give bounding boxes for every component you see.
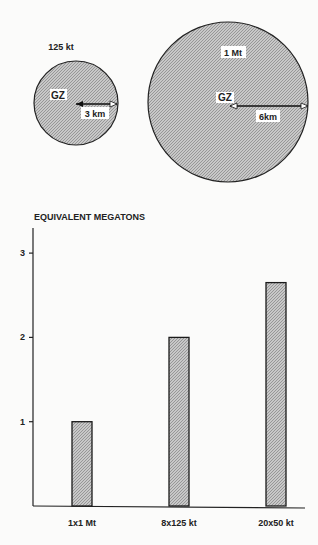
large-circle-diagram: 1 Mt GZ 6km [148,22,308,182]
bar-chart: EQUIVALENT MEGATONS 123 1x1 Mt8x125 kt20… [20,212,305,528]
small-gz-label: GZ [51,90,65,101]
small-radius-label: 3 km [85,109,106,119]
large-radius-label: 6km [259,112,277,122]
bar-3 [266,283,286,506]
y-tick-label: 3 [20,248,25,258]
y-tick-label: 2 [20,332,25,342]
large-gz-label: GZ [218,92,232,103]
large-circle-yield-label: 1 Mt [224,48,242,58]
y-tick-label: 1 [20,417,25,427]
small-circle-yield-label: 125 kt [48,42,74,52]
x-category-label: 20x50 kt [258,518,294,528]
x-category-label: 1x1 Mt [68,518,96,528]
bar-1 [72,422,92,506]
x-category-label: 8x125 kt [161,518,197,528]
small-circle-diagram: 125 kt GZ 3 km [34,42,118,145]
chart-title: EQUIVALENT MEGATONS [34,212,145,222]
bar-2 [169,337,189,506]
figure: 125 kt GZ 3 km 1 Mt GZ 6km EQUIVALENT ME… [0,0,318,545]
small-circle [34,61,118,145]
